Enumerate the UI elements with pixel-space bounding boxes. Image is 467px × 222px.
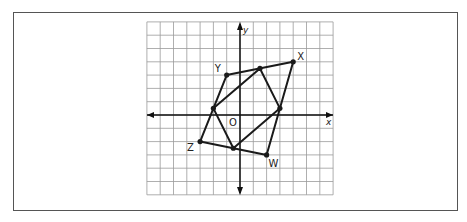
axes: x y O (147, 22, 333, 195)
quadrilaterals (198, 59, 296, 157)
vertex-point (211, 106, 216, 111)
vertex-point (257, 66, 262, 71)
x-axis-label: x (325, 117, 332, 127)
coordinate-plane: x y O XYZW (0, 0, 467, 222)
y-axis-down-arrow-icon (237, 187, 243, 195)
vertex-point (198, 139, 203, 144)
vertex-point (291, 59, 296, 64)
origin-label: O (229, 117, 237, 128)
midpoint-quadrilateral (213, 68, 280, 148)
vertex-label-z: Z (187, 142, 194, 153)
y-axis-label: y (242, 25, 249, 35)
vertex-label-x: X (297, 51, 304, 62)
vertex-point (224, 73, 229, 78)
vertex-label-y: Y (214, 63, 222, 74)
vertex-label-w: W (269, 158, 279, 169)
x-axis-left-arrow-icon (147, 112, 154, 118)
vertex-point (231, 146, 236, 151)
vertex-point (264, 152, 269, 157)
vertex-point (277, 106, 282, 111)
